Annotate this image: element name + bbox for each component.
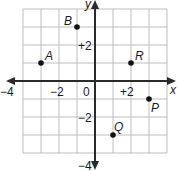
x-axis-label: x (169, 83, 177, 97)
tick-x-pos2: +2 (120, 85, 134, 99)
y-axis-down-arrow-icon (91, 161, 99, 170)
point-q-label: Q (114, 120, 123, 134)
tick-x-neg2: −2 (50, 85, 64, 99)
point-r-label: R (135, 49, 144, 63)
point-a-label: A (44, 49, 53, 63)
y-axis-up-arrow-icon (91, 0, 99, 9)
tick-x-neg4: −4 (0, 85, 14, 99)
point-p-label: P (151, 101, 159, 115)
tick-origin: 0 (83, 85, 90, 99)
point-b-label: B (64, 14, 72, 28)
x-axis (6, 77, 176, 85)
tick-y-neg2: −2 (78, 111, 92, 125)
coordinate-plane: x y −4 −2 0 +2 +2 −2 −4 A B R P Q (0, 0, 178, 171)
tick-y-neg4: −4 (78, 159, 92, 171)
x-axis-left-arrow-icon (6, 77, 15, 85)
y-axis (91, 0, 99, 170)
tick-y-pos2: +2 (78, 39, 92, 53)
y-axis-label: y (84, 0, 92, 11)
